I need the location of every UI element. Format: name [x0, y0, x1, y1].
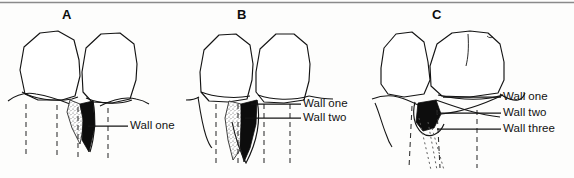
- defect-void-b: [240, 100, 257, 162]
- bone-crest-left-outer-b: [186, 97, 199, 100]
- panel-letter-a: A: [62, 8, 71, 21]
- defect-void-c: [416, 100, 441, 131]
- tooth-crown-left-a: [20, 31, 80, 100]
- tooth-crown-right-a: [82, 33, 137, 103]
- label-word-ordinal: one: [155, 119, 175, 131]
- label-panel-c-wall-one: Wallone: [503, 91, 548, 103]
- label-word-wall: Wall: [303, 97, 325, 109]
- tooth-crown-left-b: [200, 34, 253, 102]
- label-word-wall: Wall: [503, 90, 525, 102]
- figure-container: A B C Wallone Wallone Walltwo Wallone Wa…: [0, 0, 574, 178]
- panel-letter-c: C: [432, 8, 441, 21]
- label-word-wall: Wall: [130, 119, 152, 131]
- tooth-crown-right-c: [430, 31, 504, 97]
- label-word-wall: Wall: [503, 106, 525, 118]
- label-panel-c-wall-three: Wallthree: [503, 123, 555, 135]
- label-word-ordinal: one: [328, 97, 348, 109]
- panel-letter-b: B: [237, 8, 246, 21]
- label-panel-b-wall-one: Wallone: [303, 98, 348, 110]
- label-panel-b-wall-two: Walltwo: [303, 112, 347, 124]
- label-word-ordinal: two: [328, 111, 346, 123]
- label-word-ordinal: one: [528, 90, 548, 102]
- bone-crest-left-c: [372, 96, 418, 105]
- panel-a-drawing: [8, 31, 149, 158]
- tooth-crown-left-c: [381, 32, 430, 97]
- label-panel-c-wall-two: Walltwo: [503, 107, 547, 119]
- bone-crest-left-low-c: [375, 103, 392, 147]
- label-word-wall: Wall: [503, 122, 525, 134]
- label-word-wall: Wall: [303, 111, 325, 123]
- tooth-crown-right-b: [256, 34, 310, 103]
- bone-crest-left-b: [198, 97, 212, 148]
- label-word-ordinal: three: [528, 122, 555, 134]
- label-panel-a-wall-one: Wallone: [130, 120, 175, 132]
- dental-illustration-svg: [0, 0, 574, 178]
- label-word-ordinal: two: [528, 106, 546, 118]
